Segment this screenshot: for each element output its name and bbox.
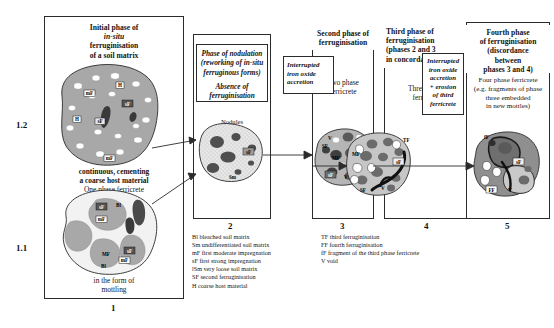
label-fF-5: fF [484, 134, 489, 140]
legend-item-sm: Sm undifferentiated soil matrix [192, 241, 271, 249]
label-V-5: V [508, 187, 512, 193]
label-mF2-1-1: mF [121, 257, 128, 263]
label-sF2-1-1: sF [127, 248, 132, 254]
soil-blob-1-1: sF mF sF mF Bl MF Bl [63, 190, 157, 274]
label-sF-5: sF [516, 159, 521, 165]
diagram-graphics: sF sF mF mF H H sF mF sF mF Bl MF Bl [0, 0, 554, 328]
label-sF2-1-2: sF [97, 118, 102, 124]
label-sF-2: sF [246, 149, 251, 155]
label-Sm-2: Sm [229, 174, 237, 180]
label-mF2-1-2: mF [106, 155, 113, 161]
label-MF-1-1: MF [102, 251, 110, 257]
legend-item-sf: sF first strong impregnation [192, 257, 271, 265]
label-sF-4: sF [396, 159, 401, 165]
legend-item-h: H coarse host material [192, 282, 271, 290]
label-FF-5: FF [488, 187, 494, 193]
label-MF-3: MF [332, 155, 340, 161]
label-V-3: V [328, 135, 332, 141]
label-sF-3: sF [328, 172, 333, 178]
label-MF-4: MF [352, 151, 360, 157]
legend-item-v: V void [321, 257, 419, 265]
label-Bl2-1-1: Bl [101, 263, 106, 269]
soil-blob-5: fF sF FF V [474, 132, 539, 196]
soil-blob-4: TF MF sF SF V [347, 133, 411, 195]
label-V2-3: V [344, 174, 348, 180]
legend-item-ff: FF fourth ferruginisation [321, 241, 419, 249]
label-sF-1-2: sF [125, 101, 130, 107]
legend-item-mf: mF first moderate impregnation [192, 249, 271, 257]
legend-item-lsm: lSm very loose soil matrix [192, 265, 271, 273]
legend-right-column: TF third ferruginisation FF fourth ferru… [321, 233, 419, 265]
label-SF-4: SF [360, 187, 366, 193]
soil-blob-2: sF Sm [199, 123, 262, 181]
legend-left-column: Bl bleached soil matrix Sm undifferentia… [192, 233, 271, 290]
label-SF-3: SF [322, 143, 328, 149]
legend-item-bl: Bl bleached soil matrix [192, 233, 271, 241]
label-sF-1-1: sF [99, 204, 104, 210]
label-TF-4: TF [403, 137, 410, 143]
legend-item-ff-frag: fF fragment of the third phase ferricret… [321, 249, 419, 257]
label-Bl-1-1: Bl [116, 202, 121, 208]
label-mF-1-2: mF [86, 90, 93, 96]
legend-item-tf: TF third ferruginisation [321, 233, 419, 241]
legend-item-sf2: SF second ferruginisation [192, 273, 271, 281]
label-mF-1-1: mF [98, 216, 105, 222]
label-H-1-2: H [118, 82, 122, 88]
label-V-4: V [381, 185, 385, 191]
soil-blob-1-2: sF sF mF mF H H [62, 64, 158, 165]
label-H2-1-2: H [75, 116, 79, 122]
